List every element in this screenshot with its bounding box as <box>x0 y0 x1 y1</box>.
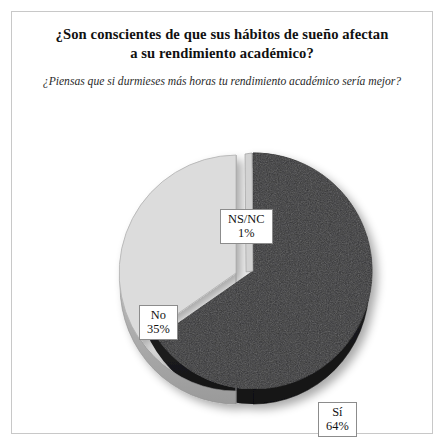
slice-label-si: Sí 64% <box>318 402 357 437</box>
slice-label-nsnc-name: NS/NC <box>228 212 265 226</box>
slice-label-no-value: 35% <box>147 322 170 336</box>
slice-label-si-name: Sí <box>326 405 349 419</box>
slice-label-nsnc: NS/NC 1% <box>220 209 273 244</box>
pie-chart: NS/NC 1% No 35% Sí 64% <box>24 108 445 438</box>
pie-body <box>119 153 372 404</box>
heading-block: ¿Son conscientes de que sus hábitos de s… <box>12 25 432 89</box>
page-title: ¿Son conscientes de que sus hábitos de s… <box>12 25 432 63</box>
pie-chart-svg <box>24 108 445 438</box>
chart-title-line-1: ¿Son conscientes de que sus hábitos de s… <box>56 26 389 42</box>
slice-label-no: No 35% <box>139 305 178 340</box>
slice-label-no-name: No <box>147 308 170 322</box>
chart-title-line-2: a su rendimiento académico? <box>130 45 314 61</box>
chart-subtitle: ¿Piensas que si durmieses más horas tu r… <box>12 74 432 89</box>
figure-frame: ¿Son conscientes de que sus hábitos de s… <box>11 11 433 434</box>
slice-label-si-value: 64% <box>326 419 349 433</box>
slice-label-nsnc-value: 1% <box>228 226 265 240</box>
